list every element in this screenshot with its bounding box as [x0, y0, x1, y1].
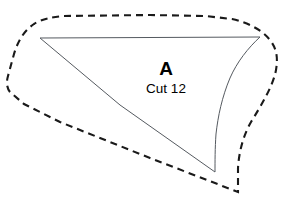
piece-label: A: [159, 58, 173, 79]
pattern-piece-drawing: A Cut 12: [0, 0, 289, 200]
pattern-sheet: A Cut 12: [0, 0, 289, 200]
piece-cut-instruction: Cut 12: [146, 81, 186, 96]
sewing-line: [40, 37, 260, 172]
cutting-line: [7, 15, 277, 192]
